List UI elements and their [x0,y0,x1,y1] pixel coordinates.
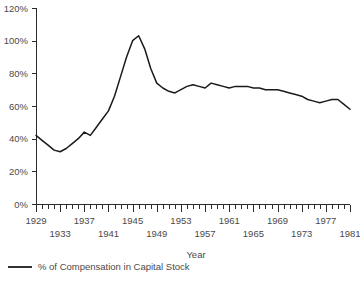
x-tick-label-lower: 1941 [98,228,119,239]
legend: % of Compensation in Capital Stock [8,261,190,272]
x-tick-label-upper: 1961 [219,215,240,226]
series-line [36,36,350,152]
x-axis [36,205,351,212]
x-tick-label-upper: 1945 [122,215,143,226]
x-tick-label-lower: 1965 [243,228,264,239]
x-tick-label-upper: 1977 [315,215,336,226]
y-tick-labels: 0%20%40%60%80%100%120% [4,3,29,210]
y-tick-label: 100% [4,35,29,46]
y-tick-label: 0% [14,199,28,210]
y-tick-label: 120% [4,3,29,14]
x-tick-label-lower: 1973 [291,228,312,239]
y-tick-label: 60% [9,101,29,112]
y-tick-label: 80% [9,68,29,79]
x-tick-label-upper: 1929 [25,215,46,226]
line-chart: 1929193719451953196119691977193319411949… [0,0,360,282]
x-tick-label-upper: 1937 [74,215,95,226]
chart-container: 1929193719451953196119691977193319411949… [0,0,360,282]
x-tick-label-lower: 1949 [146,228,167,239]
y-axis [32,8,37,205]
y-tick-label: 20% [9,166,29,177]
x-tick-label-lower: 1957 [195,228,216,239]
x-tick-label-upper: 1953 [170,215,191,226]
x-tick-label-upper: 1969 [267,215,288,226]
legend-label: % of Compensation in Capital Stock [38,261,190,272]
x-tick-label-lower: 1981 [339,228,360,239]
data-series-group [36,36,350,152]
x-tick-labels: 1929193719451953196119691977193319411949… [25,215,360,239]
y-tick-label: 40% [9,133,29,144]
x-axis-title: Year [186,249,205,260]
x-tick-label-lower: 1933 [50,228,71,239]
